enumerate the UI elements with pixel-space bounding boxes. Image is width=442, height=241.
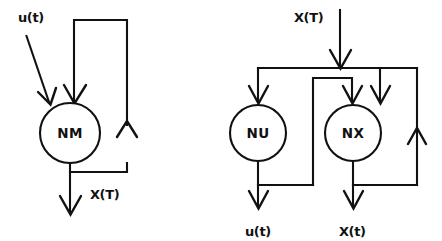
node-nu-label: NU xyxy=(247,125,270,141)
node-nx-label: NX xyxy=(342,125,365,141)
signal-label-x-input-right: X(T) xyxy=(294,10,323,25)
wire-feedback-riser-nx xyxy=(408,68,426,185)
wire-main-bus xyxy=(249,68,417,104)
signal-label-x-output-left: X(T) xyxy=(90,187,119,202)
node-nm-label: NM xyxy=(57,125,82,141)
node-nm: NM xyxy=(40,103,100,163)
signal-label-u-output-right: u(t) xyxy=(245,224,271,239)
diagram-single-network-model: NM u(t) X(T) xyxy=(18,10,137,215)
figure-root: NM u(t) X(T) xyxy=(0,0,442,241)
wire-nu-output xyxy=(249,161,313,209)
wire-u-input-to-nm xyxy=(27,36,57,105)
diagram-dual-network-model: NU NX xyxy=(230,10,426,239)
block-diagram-canvas: NM u(t) X(T) xyxy=(0,0,442,241)
wire-nx-output xyxy=(344,161,417,209)
node-nx: NX xyxy=(325,105,381,161)
signal-label-x-output-right: X(t) xyxy=(339,224,366,239)
node-nu: NU xyxy=(230,105,286,161)
wire-x-input-to-bus xyxy=(330,10,351,69)
signal-label-u-input-left: u(t) xyxy=(18,10,44,25)
